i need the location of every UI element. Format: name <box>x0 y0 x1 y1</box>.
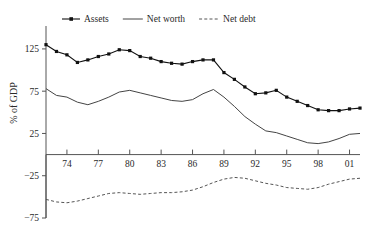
y-axis-title: % of GDP <box>8 82 19 124</box>
series-line-assets <box>46 45 360 111</box>
x-tick-label: 80 <box>125 159 135 169</box>
caption-sliver <box>0 239 366 245</box>
data-point-marker <box>107 52 110 55</box>
legend-marker-assets <box>69 17 73 21</box>
data-point-marker <box>65 53 68 56</box>
x-tick-label: 01 <box>345 159 355 169</box>
data-point-marker <box>128 49 131 52</box>
x-tick-label: 77 <box>94 159 104 169</box>
data-point-marker <box>348 107 351 110</box>
x-tick-label: 92 <box>251 159 261 169</box>
data-point-marker <box>44 43 47 46</box>
data-point-marker <box>118 48 121 51</box>
data-point-marker <box>233 78 236 81</box>
data-point-marker <box>191 60 194 63</box>
y-tick-label: −25 <box>24 171 39 181</box>
data-point-marker <box>86 58 89 61</box>
data-point-marker <box>264 91 267 94</box>
data-point-marker <box>97 55 100 58</box>
x-tick-label: 98 <box>313 159 323 169</box>
y-tick-label: 75 <box>30 87 40 97</box>
data-point-marker <box>201 58 204 61</box>
data-point-marker <box>180 63 183 66</box>
data-point-marker <box>222 71 225 74</box>
y-tick-label: 125 <box>25 44 40 54</box>
data-point-marker <box>160 60 163 63</box>
data-point-marker <box>254 92 257 95</box>
data-point-marker <box>306 104 309 107</box>
x-tick-label: 83 <box>156 159 166 169</box>
line-chart: 1257525−25−7574778083868992959801% of GD… <box>0 0 366 245</box>
data-point-marker <box>358 106 361 109</box>
data-point-marker <box>327 109 330 112</box>
data-point-marker <box>243 85 246 88</box>
data-point-marker <box>149 57 152 60</box>
legend-label: Net debt <box>223 14 256 24</box>
x-tick-label: 95 <box>282 159 292 169</box>
data-point-marker <box>296 100 299 103</box>
data-point-marker <box>212 58 215 61</box>
data-point-marker <box>285 96 288 99</box>
data-point-marker <box>337 109 340 112</box>
legend-label: Assets <box>84 14 109 24</box>
data-point-marker <box>170 62 173 65</box>
data-point-marker <box>139 55 142 58</box>
x-tick-label: 74 <box>62 159 72 169</box>
series-line-net-debt <box>46 177 360 202</box>
data-point-marker <box>317 108 320 111</box>
legend-label: Net worth <box>147 14 186 24</box>
data-point-marker <box>76 61 79 64</box>
data-point-marker <box>275 89 278 92</box>
x-tick-label: 86 <box>188 159 198 169</box>
x-tick-label: 89 <box>219 159 229 169</box>
chart-figure: 1257525−25−7574778083868992959801% of GD… <box>0 0 366 245</box>
y-tick-label: 25 <box>30 129 40 139</box>
data-point-marker <box>55 50 58 53</box>
series-line-net-worth <box>46 89 360 144</box>
y-tick-label: −75 <box>24 213 39 223</box>
